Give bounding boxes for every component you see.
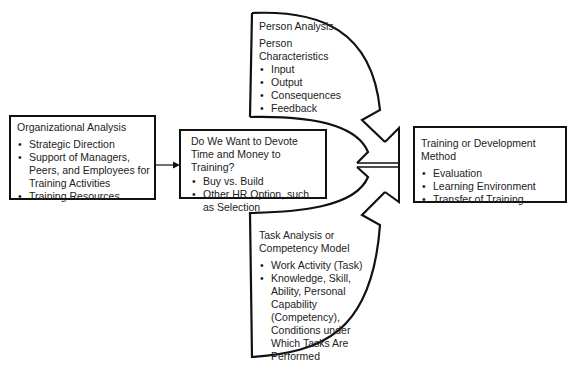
list-item: Output	[259, 76, 369, 89]
list-item: Evaluation	[421, 167, 566, 180]
organizational-analysis: Organizational Analysis Strategic Direct…	[17, 121, 152, 203]
training-method: Training or Development Method Evaluatio…	[421, 137, 566, 206]
connector-arrowhead	[385, 128, 399, 202]
task-analysis: Task Analysis or Competency Model Work A…	[259, 229, 369, 363]
person-analysis-left-edge	[250, 13, 252, 117]
organizational-analysis-title: Organizational Analysis	[17, 121, 152, 134]
person-analysis-list: Input Output Consequences Feedback	[259, 63, 369, 115]
list-item: Input	[259, 63, 369, 76]
arrowhead-icon	[173, 162, 180, 169]
list-item: Consequences	[259, 89, 369, 102]
person-analysis-title: Person Analysis	[259, 20, 369, 33]
task-analysis-list: Work Activity (Task) Knowledge, Skill, A…	[259, 259, 369, 363]
list-item: Learning Environment	[421, 180, 566, 193]
organizational-analysis-list: Strategic Direction Support of Managers,…	[17, 138, 152, 203]
list-item: Strategic Direction	[17, 138, 152, 151]
person-analysis: Person Analysis Person Characteristics I…	[259, 20, 369, 115]
decision-title: Do We Want to Devote Time and Money to T…	[191, 135, 323, 174]
list-item: Support of Managers, Peers, and Employee…	[17, 151, 152, 190]
list-item: Transfer of Training	[421, 193, 566, 206]
list-item: Knowledge, Skill, Ability, Personal Capa…	[259, 272, 369, 363]
list-item: Training Resources	[17, 190, 152, 203]
decision: Do We Want to Devote Time and Money to T…	[191, 135, 323, 214]
training-method-list: Evaluation Learning Environment Transfer…	[421, 167, 566, 206]
list-item: Feedback	[259, 102, 369, 115]
decision-list: Buy vs. Build Other HR Option, such as S…	[191, 175, 323, 214]
person-analysis-subtitle: Person Characteristics	[259, 37, 329, 63]
training-method-title: Training or Development Method	[421, 137, 566, 163]
list-item: Work Activity (Task)	[259, 259, 369, 272]
task-analysis-title: Task Analysis or Competency Model	[259, 229, 354, 255]
list-item: Buy vs. Build	[191, 175, 323, 188]
list-item: Other HR Option, such as Selection	[191, 188, 323, 214]
